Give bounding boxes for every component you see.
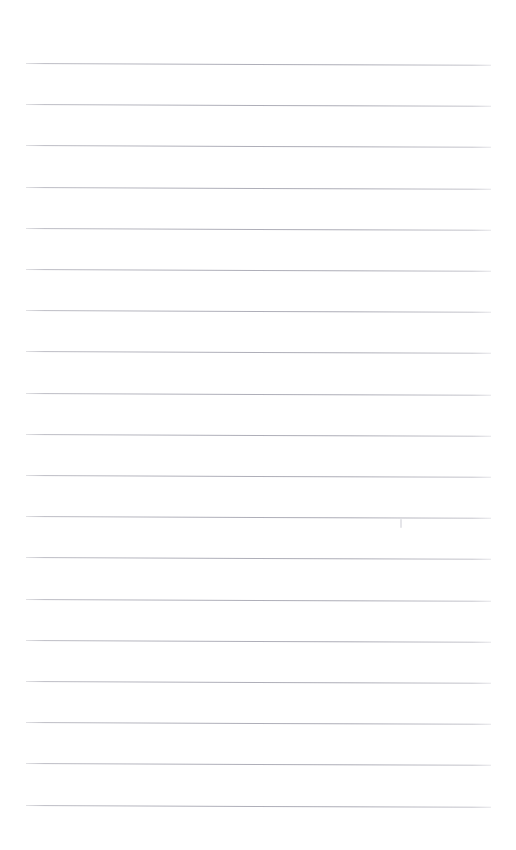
- rule-line: [26, 516, 491, 519]
- rule-line: [26, 63, 491, 66]
- rule-line: [26, 228, 491, 231]
- rule-line: [26, 475, 491, 478]
- rule-line: [26, 269, 491, 272]
- rule-line: [26, 187, 491, 190]
- scan-speck: [400, 519, 402, 528]
- rule-line: [26, 599, 491, 602]
- rule-line: [26, 434, 491, 437]
- rule-line: [26, 393, 491, 396]
- rule-line: [26, 722, 491, 725]
- rule-line: [26, 351, 491, 354]
- rule-line: [26, 310, 491, 313]
- ruled-lines-layer: [0, 0, 516, 850]
- rule-line: [26, 763, 491, 766]
- rule-line: [26, 104, 491, 107]
- rule-line: [26, 557, 491, 560]
- rule-line: [26, 640, 491, 643]
- notebook-page: [0, 0, 516, 850]
- rule-line: [26, 145, 491, 148]
- rule-line: [26, 805, 491, 808]
- rule-line: [26, 681, 491, 684]
